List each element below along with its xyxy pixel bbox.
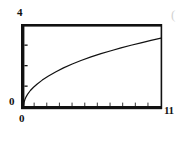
x-axis-max-label: 11 — [164, 105, 174, 116]
axis-right — [161, 24, 163, 109]
edge-clipped-glyph: ( — [171, 8, 178, 22]
axis-top — [21, 24, 162, 27]
plot-frame — [21, 24, 162, 109]
x-axis-ticks — [34, 103, 149, 106]
y-axis-min-label: 0 — [9, 96, 14, 107]
chart-figure: 4 0 0 11 ( — [0, 0, 178, 145]
y-axis-ticks — [24, 45, 27, 87]
data-series-curve — [24, 38, 162, 107]
x-axis-min-label: 0 — [19, 113, 24, 124]
plot-canvas — [0, 0, 178, 145]
axis-left — [21, 24, 24, 109]
axis-bottom — [21, 106, 162, 109]
y-axis-max-label: 4 — [17, 7, 22, 18]
